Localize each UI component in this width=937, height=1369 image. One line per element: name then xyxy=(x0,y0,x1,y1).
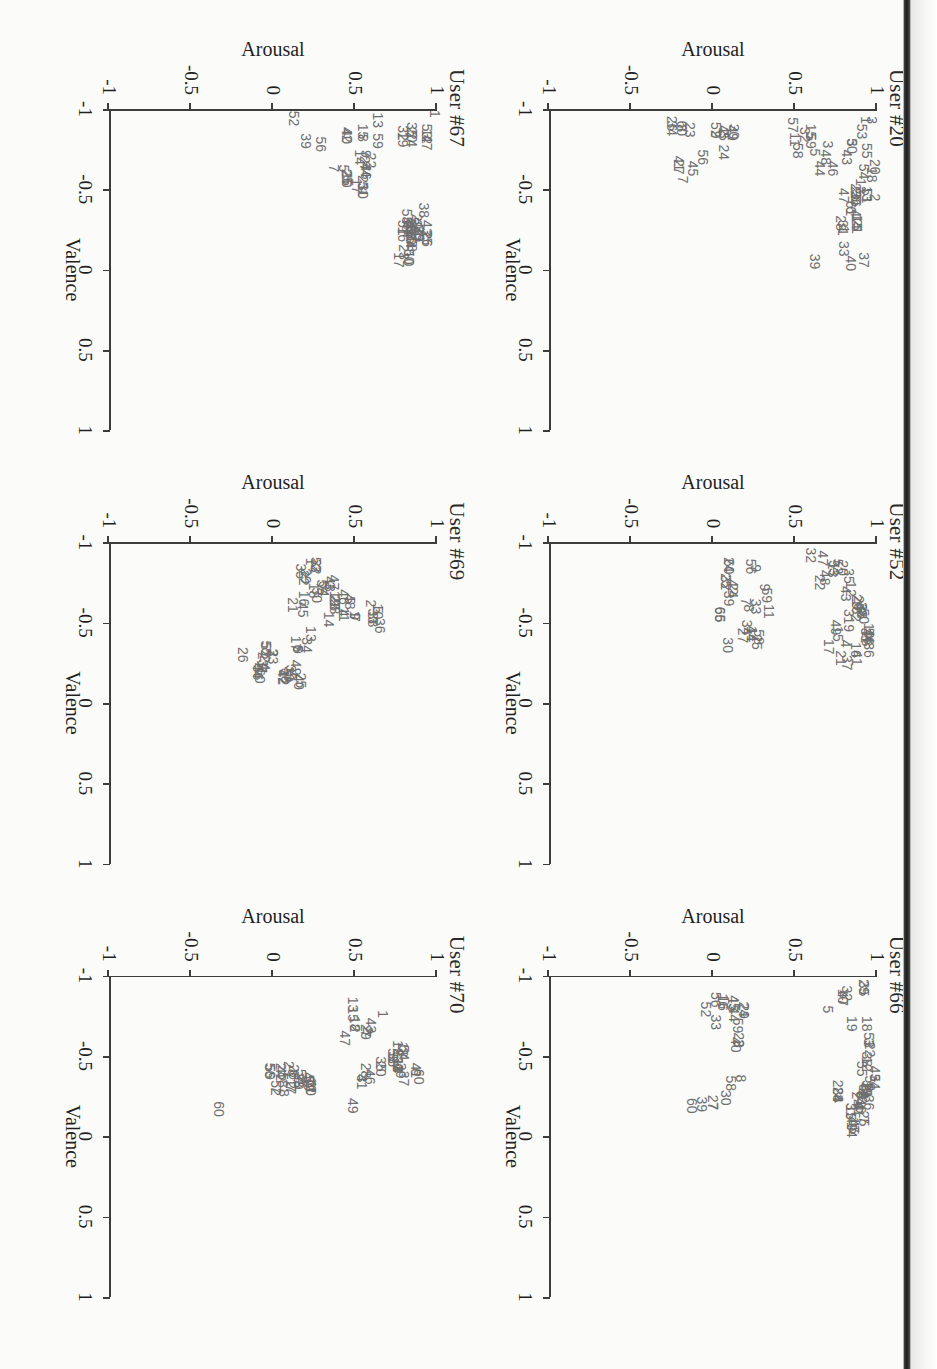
y-tick-label: 0.5 xyxy=(784,937,806,961)
data-point-label: 27 xyxy=(735,627,749,643)
panel-title: User #67 xyxy=(444,69,469,147)
x-tick-label: 0.5 xyxy=(74,771,96,795)
x-tick-mark xyxy=(543,783,550,785)
data-point-label: 36 xyxy=(372,618,386,634)
panel-user-66: User #66 Valence Arousal 110.50.500-0.5-… xyxy=(475,897,915,1330)
data-point-label: 10 xyxy=(356,183,370,199)
y-tick-label: -1 xyxy=(98,512,120,528)
y-tick-mark xyxy=(271,103,273,110)
data-point-label: 7 xyxy=(359,1029,373,1037)
x-tick-label: 0 xyxy=(514,264,536,274)
data-point-label: 26 xyxy=(420,231,434,247)
data-point-label: 13 xyxy=(370,112,384,128)
figure-page: User #20 Valence Arousal 110.50.500-0.5-… xyxy=(35,31,915,1331)
data-point-label: 60 xyxy=(252,667,266,683)
x-tick-mark xyxy=(543,269,550,271)
y-tick-label: 1 xyxy=(866,952,888,962)
x-tick-mark xyxy=(543,1055,550,1057)
x-tick-mark xyxy=(103,1216,110,1218)
y-tick-label: -1 xyxy=(98,79,120,95)
data-point-label: 52 xyxy=(699,1001,713,1017)
data-point-label: 56 xyxy=(313,136,327,152)
x-tick-mark xyxy=(543,863,550,865)
x-tick-mark xyxy=(103,542,110,544)
data-point-label: 9 xyxy=(748,564,762,572)
x-tick-mark xyxy=(103,1055,110,1057)
plot-area: Valence Arousal 110.50.500-0.5-0.5-1-132… xyxy=(549,542,877,863)
x-tick-label: 0 xyxy=(514,1131,536,1141)
data-point-label: 34 xyxy=(665,120,679,136)
y-tick-mark xyxy=(189,536,191,543)
y-tick-label: 1 xyxy=(426,518,448,528)
y-tick-mark xyxy=(875,536,877,543)
y-axis-title: Arousal xyxy=(681,470,744,493)
data-point-label: 39 xyxy=(722,590,736,606)
data-point-label: 8 xyxy=(277,1089,291,1097)
data-point-label: 37 xyxy=(397,1070,411,1086)
data-point-label: 60 xyxy=(684,1098,698,1114)
x-tick-label: -1 xyxy=(74,101,96,117)
panel-grid: User #20 Valence Arousal 110.50.500-0.5-… xyxy=(35,31,915,1331)
data-point-label: 8 xyxy=(356,134,370,142)
x-tick-mark xyxy=(103,863,110,865)
y-tick-mark xyxy=(353,969,355,976)
data-point-label: 40 xyxy=(843,255,857,271)
y-tick-label: -1 xyxy=(98,945,120,961)
x-tick-mark xyxy=(543,1216,550,1218)
y-axis-title: Arousal xyxy=(241,470,304,493)
y-axis-title: Arousal xyxy=(241,904,304,927)
x-tick-mark xyxy=(543,109,550,111)
data-point-label: 44 xyxy=(812,160,826,176)
data-point-label: 45 xyxy=(686,160,700,176)
data-point-label: 39 xyxy=(298,133,312,149)
x-tick-mark xyxy=(543,349,550,351)
y-tick-label: 0 xyxy=(262,85,284,95)
data-point-label: 7 xyxy=(676,175,690,183)
data-point-label: 14 xyxy=(845,1122,859,1138)
data-point-label: 40 xyxy=(292,674,306,690)
x-tick-label: 0.5 xyxy=(514,338,536,362)
data-point-label: 41 xyxy=(354,1073,368,1089)
x-tick-label: 0.5 xyxy=(514,771,536,795)
y-tick-mark xyxy=(271,969,273,976)
data-point-label: 1 xyxy=(428,109,442,117)
y-tick-label: 0.5 xyxy=(344,504,366,528)
x-tick-mark xyxy=(103,622,110,624)
x-tick-label: -0.5 xyxy=(514,607,536,637)
y-axis-title: Arousal xyxy=(681,37,744,60)
y-tick-mark xyxy=(435,536,437,543)
x-tick-mark xyxy=(103,975,110,977)
y-tick-mark xyxy=(793,536,795,543)
x-tick-label: -1 xyxy=(74,967,96,983)
y-tick-mark xyxy=(353,103,355,110)
data-point-label: 9 xyxy=(290,646,304,654)
y-tick-label: 1 xyxy=(866,85,888,95)
plot-area: Valence Arousal 110.50.500-0.5-0.5-1-115… xyxy=(109,109,437,430)
data-point-label: 60 xyxy=(411,1069,425,1085)
panel-user-52: User #52 Valence Arousal 110.50.500-0.5-… xyxy=(475,464,915,897)
y-tick-label: 0 xyxy=(702,85,724,95)
y-tick-mark xyxy=(353,536,355,543)
x-tick-label: -1 xyxy=(74,534,96,550)
y-tick-mark xyxy=(711,969,713,976)
y-tick-label: 0.5 xyxy=(784,71,806,95)
x-tick-mark xyxy=(103,269,110,271)
y-tick-mark xyxy=(435,969,437,976)
data-point-label: 60 xyxy=(722,558,736,574)
data-point-label: 11 xyxy=(788,132,802,147)
data-point-label: 55 xyxy=(860,142,874,158)
y-tick-label: -0.5 xyxy=(180,64,202,94)
x-tick-label: 0.5 xyxy=(74,338,96,362)
data-point-label: 24 xyxy=(717,144,731,160)
data-point-label: 5 xyxy=(807,148,821,156)
x-tick-label: 1 xyxy=(74,858,96,868)
plot-area: Valence Arousal 110.50.500-0.5-0.5-1-113… xyxy=(109,975,437,1296)
plot-area: Valence Arousal 110.50.500-0.5-0.5-1-129… xyxy=(549,975,877,1296)
data-point-label: 31 xyxy=(835,220,849,236)
data-point-label: 55 xyxy=(855,1061,869,1077)
data-point-label: 59 xyxy=(370,133,384,149)
x-tick-label: 1 xyxy=(74,1292,96,1302)
y-tick-mark xyxy=(711,536,713,543)
x-tick-label: -1 xyxy=(514,101,536,117)
y-tick-label: 0.5 xyxy=(344,937,366,961)
